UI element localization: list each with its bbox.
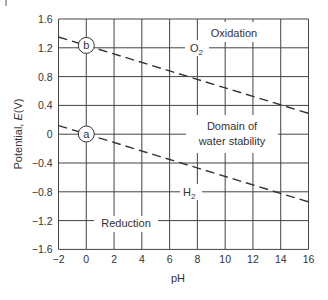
y-tick-label: −1.2: [32, 215, 53, 227]
domain-label-line1: Domain of: [207, 120, 258, 132]
reduction-label: Reduction: [101, 217, 151, 229]
x-tick-label: 16: [303, 253, 315, 265]
oxidation-label: Oxidation: [211, 27, 257, 39]
y-tick-label: 1.2: [38, 42, 53, 54]
x-tick-label: 2: [111, 253, 117, 265]
x-tick-label: 6: [167, 253, 173, 265]
y-axis-label: Potential, E(V): [12, 99, 24, 170]
y-tick-label: −0.4: [32, 157, 53, 169]
x-tick-label: 0: [83, 253, 89, 265]
x-tick-label: 8: [194, 253, 200, 265]
y-tick-label: 0.8: [38, 71, 53, 83]
y-tick-label: −1.6: [32, 243, 53, 255]
x-tick-label: −2: [53, 253, 65, 265]
y-tick-label: −0.8: [32, 186, 53, 198]
x-tick-label: 4: [139, 253, 145, 265]
x-axis-label: pH: [171, 272, 185, 284]
marker-b-label: b: [83, 39, 89, 51]
y-tick-label: 0.4: [38, 99, 53, 111]
o2-line-b: [59, 37, 309, 113]
marker-a-label: a: [83, 128, 90, 140]
domain-label-line2: water stability: [198, 135, 266, 147]
x-tick-label: 12: [247, 253, 259, 265]
x-tick-label: 10: [219, 253, 231, 265]
y-tick-label: 0: [47, 128, 53, 140]
y-tick-label: 1.6: [38, 13, 53, 25]
x-tick-label: 14: [275, 253, 287, 265]
pourbaix-chart: −202468101214161.61.20.80.40−0.4−0.8−1.2…: [0, 0, 328, 300]
